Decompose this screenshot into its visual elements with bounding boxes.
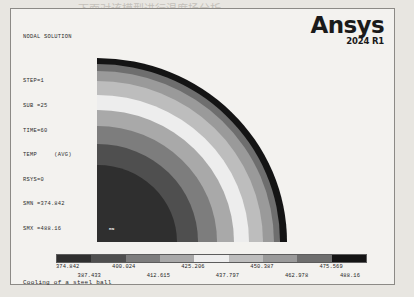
legend-swatch-6 [229, 255, 263, 262]
legend-ticks-upper: 374.842400.024425.206450.387475.569 [56, 264, 367, 273]
info-smx: SMX =488.16 [23, 225, 72, 233]
legend-tick-label: 425.206 [181, 264, 204, 270]
nodal-solution-info: NODAL SOLUTION STEP=1 SUB =25 TIME=60 TE… [23, 17, 72, 250]
contour-legend: 374.842400.024425.206450.387475.569 387.… [56, 254, 367, 282]
legend-swatch-3 [126, 255, 160, 262]
contour-plot: MX MN [97, 48, 297, 242]
legend-tick-label: 488.16 [340, 273, 360, 279]
legend-tick-label: 450.387 [250, 264, 273, 270]
plot-title: Cooling of a steel ball [23, 279, 112, 286]
info-title: NODAL SOLUTION [23, 33, 72, 41]
legend-swatch-7 [263, 255, 297, 262]
legend-swatch-4 [160, 255, 194, 262]
legend-tick-label: 462.978 [285, 273, 308, 279]
info-time: TIME=60 [23, 127, 72, 135]
info-step: STEP=1 [23, 77, 72, 85]
info-temp: TEMP (AVG) [23, 151, 72, 159]
legend-swatch-2 [91, 255, 125, 262]
legend-swatch-9 [332, 255, 366, 262]
legend-tick-label: 475.569 [319, 264, 342, 270]
ansys-wordmark: Ansys [310, 14, 384, 37]
min-node-label: MN [109, 227, 114, 232]
legend-tick-label: 400.024 [112, 264, 135, 270]
ansys-graphics-window: NODAL SOLUTION STEP=1 SUB =25 TIME=60 TE… [10, 8, 395, 285]
quarter-disc-bands [97, 58, 287, 242]
legend-tick-label: 374.842 [56, 264, 79, 270]
ansys-logo: Ansys 2024 R1 [310, 14, 384, 46]
info-smn: SMN =374.842 [23, 200, 72, 208]
legend-tick-label: 412.615 [147, 273, 170, 279]
info-rsys: RSYS=0 [23, 176, 72, 184]
max-node-label: MX [229, 105, 234, 110]
legend-swatch-5 [194, 255, 228, 262]
info-sub: SUB =25 [23, 102, 72, 110]
legend-tick-label: 437.797 [216, 273, 239, 279]
info-spacer [23, 58, 72, 61]
legend-colorbar [56, 254, 367, 263]
legend-swatch-8 [297, 255, 331, 262]
legend-swatch-1 [57, 255, 91, 262]
